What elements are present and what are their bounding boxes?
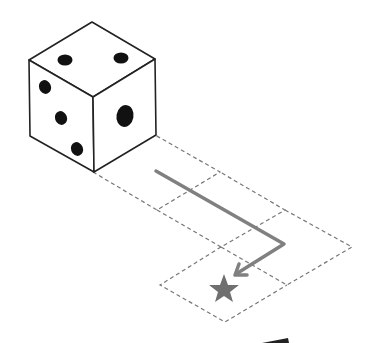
- pip: [114, 53, 129, 64]
- dice-diagram: [0, 0, 372, 343]
- star-icon: [209, 274, 239, 302]
- die: [29, 22, 156, 172]
- pip: [58, 55, 73, 66]
- partial-shape-bottom: [262, 338, 289, 343]
- roll-path-arrow: [156, 171, 284, 275]
